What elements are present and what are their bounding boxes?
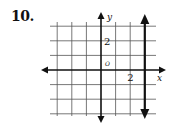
- coordinate-graph: x y O 22: [0, 0, 170, 126]
- y-axis-arrow-up-icon: [98, 12, 105, 19]
- y-axis-arrow-down-icon: [98, 116, 105, 123]
- x-tick-label: 2: [127, 72, 133, 83]
- x-axis-arrow-left-icon: [41, 67, 48, 74]
- grid: [50, 22, 156, 116]
- x-axis-label: x: [157, 73, 162, 83]
- graph-line-arrow-up-icon: [140, 14, 149, 24]
- axes: [41, 12, 166, 123]
- series: [140, 14, 149, 119]
- y-tick-label: 2: [104, 36, 110, 47]
- y-axis-label: y: [106, 12, 113, 22]
- origin-label: O: [105, 60, 110, 67]
- labels: x y O 22: [104, 12, 162, 83]
